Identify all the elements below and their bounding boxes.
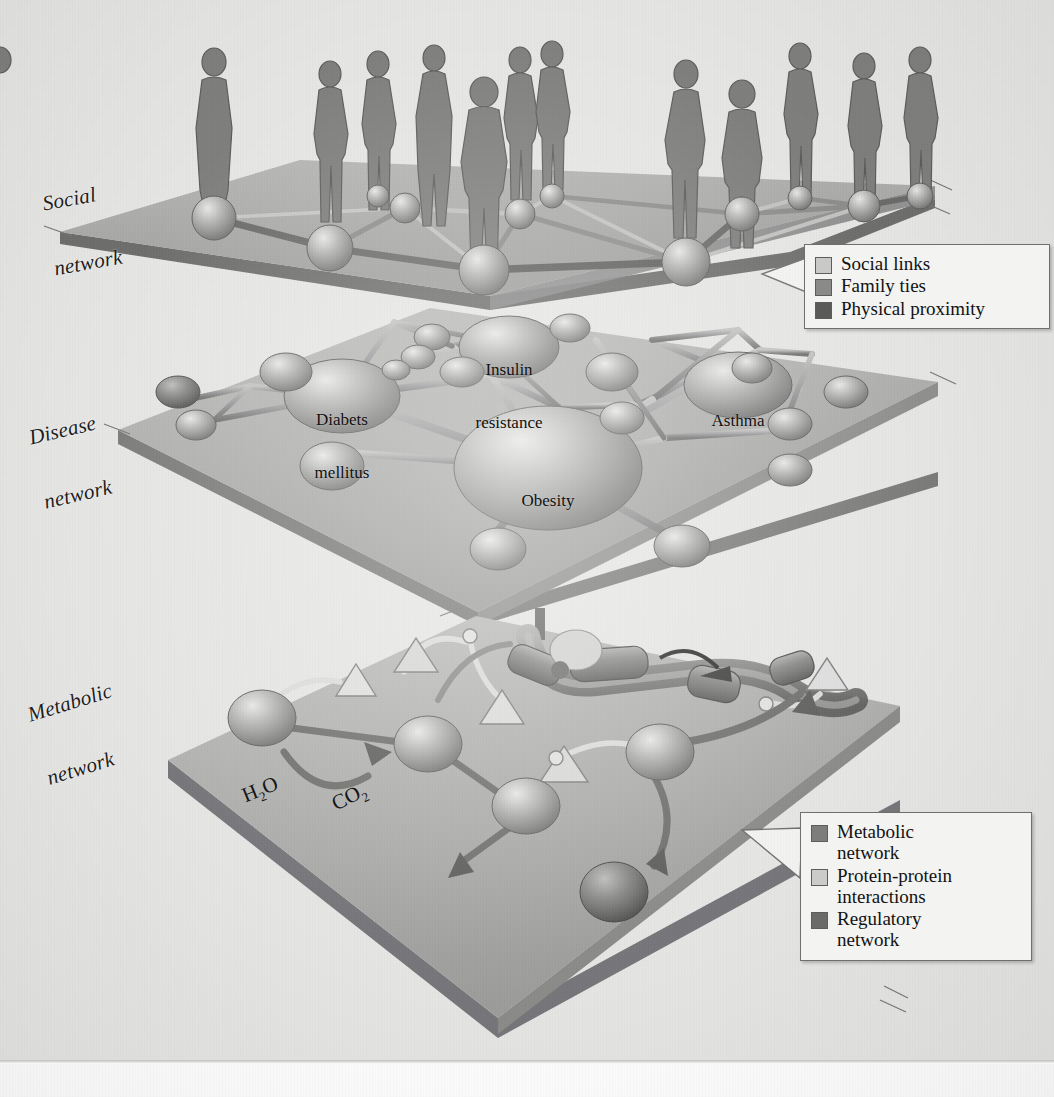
page-bottom-edge bbox=[0, 1060, 1054, 1064]
node-label-diabets-mellitus: Diabets mellitus bbox=[286, 375, 398, 518]
legend-swatch-social-links bbox=[815, 257, 832, 274]
person-silhouette bbox=[536, 41, 570, 190]
person-silhouette bbox=[196, 48, 232, 220]
legend-swatch-regulatory-network bbox=[811, 912, 828, 929]
legend-item: Regulatory network bbox=[811, 908, 1019, 951]
legend-swatch-physical-proximity bbox=[815, 302, 832, 319]
legend-item: Physical proximity bbox=[815, 298, 1037, 319]
node-label-obesity: Obesity bbox=[496, 456, 600, 545]
legend-item: Family ties bbox=[815, 275, 1037, 296]
legend-item: Protein-protein interactions bbox=[811, 865, 1019, 908]
legend-swatch-metabolic-network bbox=[811, 825, 828, 842]
metabolic-network-layer bbox=[168, 606, 908, 1038]
regulatory-node bbox=[580, 862, 648, 922]
node-label-insulin-resistance: Insulin resistance bbox=[453, 325, 565, 468]
legend-label-social-links: Social links bbox=[841, 253, 930, 274]
legend-label-regulatory-network: Regulatory network bbox=[837, 908, 921, 951]
legend-label-physical-proximity: Physical proximity bbox=[841, 298, 985, 319]
molecular-legend: Metabolic network Protein-protein intera… bbox=[800, 812, 1032, 961]
social-legend: Social links Family ties Physical proxim… bbox=[804, 244, 1050, 329]
legend-label-protein-protein: Protein-protein interactions bbox=[837, 865, 952, 908]
legend-item: Metabolic network bbox=[811, 821, 1019, 864]
legend-swatch-protein-protein bbox=[811, 869, 828, 886]
figure-root: Social network Disease network Metabolic… bbox=[0, 0, 1054, 1097]
legend-item: Social links bbox=[815, 253, 1037, 274]
legend-label-metabolic-network: Metabolic network bbox=[837, 821, 914, 864]
legend-swatch-family-ties bbox=[815, 279, 832, 296]
node-label-asthma: Asthma bbox=[690, 376, 786, 465]
legend-label-family-ties: Family ties bbox=[841, 275, 926, 296]
person-silhouette bbox=[784, 43, 818, 198]
